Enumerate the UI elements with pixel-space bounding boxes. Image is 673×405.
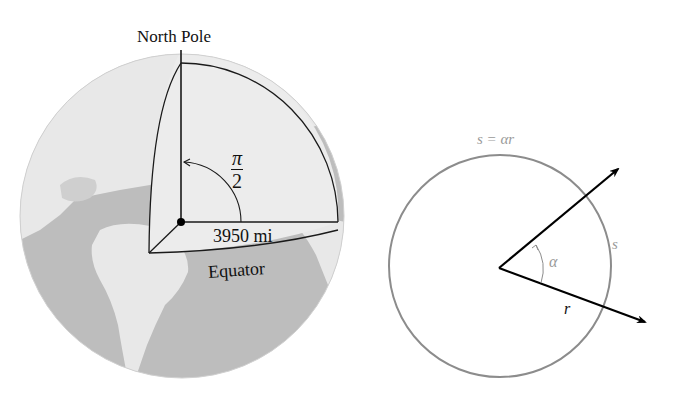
radian-diagram	[389, 155, 645, 377]
globe	[20, 40, 345, 380]
alpha-arrowhead	[532, 245, 538, 250]
angle-alpha-label: α	[549, 253, 557, 271]
angle-fraction-label: π 2	[231, 148, 243, 191]
north-pole-label: North Pole	[137, 27, 211, 47]
earth-center-dot	[177, 218, 185, 226]
ray-lower	[499, 268, 645, 322]
radius-label: 3950 mi	[213, 226, 273, 247]
alpha-arc	[536, 245, 543, 283]
angle-numerator: π	[232, 148, 242, 168]
arc-length-label: s	[612, 236, 618, 253]
arc-formula-label: s = αr	[477, 131, 514, 148]
radius-r-label: r	[564, 300, 570, 318]
angle-denominator: 2	[232, 171, 242, 191]
equator-label: Equator	[207, 258, 265, 283]
diagram-canvas	[0, 0, 673, 405]
